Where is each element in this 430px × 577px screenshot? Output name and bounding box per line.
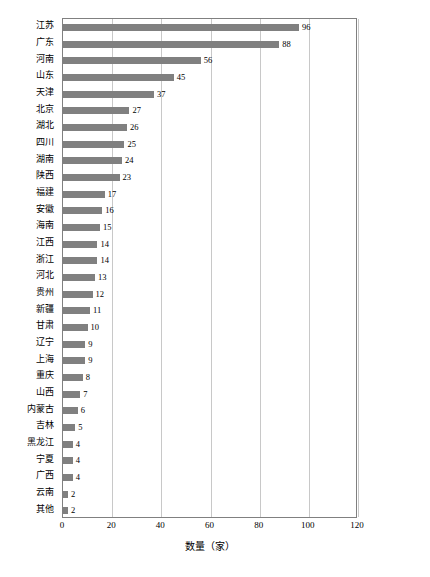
bar [63, 391, 80, 398]
bar [63, 374, 83, 381]
bar [63, 307, 90, 314]
category-label: 吉林 [36, 421, 54, 430]
bar-value-label: 24 [125, 156, 134, 165]
category-label: 广西 [36, 471, 54, 480]
bar [63, 324, 88, 331]
bar [63, 57, 201, 64]
bar-value-label: 4 [76, 456, 80, 465]
bar-row: 12 [63, 288, 356, 300]
bar [63, 191, 105, 198]
category-label: 天津 [36, 88, 54, 97]
category-label: 陕西 [36, 171, 54, 180]
bar-row: 10 [63, 321, 356, 333]
bar-row: 11 [63, 305, 356, 317]
plot-area: 9688564537272625242317161514141312111099… [62, 18, 357, 518]
bar-value-label: 4 [76, 440, 80, 449]
bar-row: 4 [63, 471, 356, 483]
category-label: 浙江 [36, 255, 54, 264]
bar-value-label: 27 [132, 106, 141, 115]
x-tick-label: 80 [254, 520, 263, 530]
bar [63, 41, 279, 48]
category-label: 四川 [36, 138, 54, 147]
bar-row: 88 [63, 38, 356, 50]
bar-value-label: 5 [78, 423, 82, 432]
bar [63, 24, 299, 31]
category-label: 黑龙江 [27, 438, 54, 447]
x-tick-label: 60 [205, 520, 214, 530]
bar [63, 107, 129, 114]
bar-value-label: 14 [100, 256, 109, 265]
category-label: 山东 [36, 71, 54, 80]
bar [63, 74, 174, 81]
bar-row: 24 [63, 155, 356, 167]
bar-row: 5 [63, 421, 356, 433]
bar [63, 141, 124, 148]
bar [63, 291, 93, 298]
category-label: 江苏 [36, 21, 54, 30]
category-label: 其他 [36, 505, 54, 514]
bar-value-label: 11 [93, 306, 101, 315]
bar-value-label: 9 [88, 356, 92, 365]
category-label: 上海 [36, 355, 54, 364]
bar-row: 16 [63, 205, 356, 217]
gridline [358, 19, 359, 517]
bar-value-label: 13 [98, 273, 107, 282]
bar-row: 4 [63, 455, 356, 467]
bar [63, 241, 97, 248]
bar-row: 23 [63, 171, 356, 183]
bar-value-label: 2 [71, 490, 75, 499]
bar-value-label: 45 [177, 73, 186, 82]
bar [63, 407, 78, 414]
bar-row: 8 [63, 371, 356, 383]
bar-value-label: 10 [91, 323, 100, 332]
bar-value-label: 12 [96, 290, 105, 299]
bar-row: 27 [63, 105, 356, 117]
bar [63, 274, 95, 281]
bar [63, 224, 100, 231]
bar [63, 91, 154, 98]
category-label: 内蒙古 [27, 405, 54, 414]
bar-value-label: 56 [204, 56, 213, 65]
x-tick-label: 20 [107, 520, 116, 530]
bar-row: 13 [63, 271, 356, 283]
bar-row: 14 [63, 238, 356, 250]
bar-value-label: 6 [81, 406, 85, 415]
category-label: 甘肃 [36, 321, 54, 330]
bar-row: 17 [63, 188, 356, 200]
category-label: 海南 [36, 221, 54, 230]
bar-value-label: 23 [123, 173, 132, 182]
bar-row: 4 [63, 438, 356, 450]
category-label: 湖南 [36, 155, 54, 164]
bar-row: 56 [63, 55, 356, 67]
bar [63, 491, 68, 498]
bar [63, 424, 75, 431]
category-label: 江西 [36, 238, 54, 247]
x-tick-label: 100 [301, 520, 315, 530]
bar-row: 2 [63, 488, 356, 500]
bar [63, 174, 120, 181]
bar-value-label: 15 [103, 223, 112, 232]
category-label: 辽宁 [36, 338, 54, 347]
x-axis-title: 数量（家） [62, 538, 357, 553]
x-tick-label: 120 [350, 520, 364, 530]
category-label: 云南 [36, 488, 54, 497]
category-label: 广东 [36, 38, 54, 47]
bar [63, 341, 85, 348]
bar-row: 45 [63, 71, 356, 83]
bar-row: 96 [63, 21, 356, 33]
bar-value-label: 16 [105, 206, 114, 215]
bar [63, 441, 73, 448]
x-axis-tick-labels: 020406080100120 [62, 520, 357, 534]
category-label: 重庆 [36, 371, 54, 380]
category-label: 安徽 [36, 205, 54, 214]
category-label: 宁夏 [36, 455, 54, 464]
bar-value-label: 7 [83, 390, 87, 399]
bar-value-label: 96 [302, 23, 311, 32]
bar-row: 26 [63, 121, 356, 133]
category-label: 山西 [36, 388, 54, 397]
y-axis-category-labels: 江苏广东河南山东天津北京湖北四川湖南陕西福建安徽海南江西浙江河北贵州新疆甘肃辽宁… [0, 18, 58, 518]
bar-row: 37 [63, 88, 356, 100]
bar-value-label: 88 [282, 40, 291, 49]
bar [63, 457, 73, 464]
bar-row: 7 [63, 388, 356, 400]
